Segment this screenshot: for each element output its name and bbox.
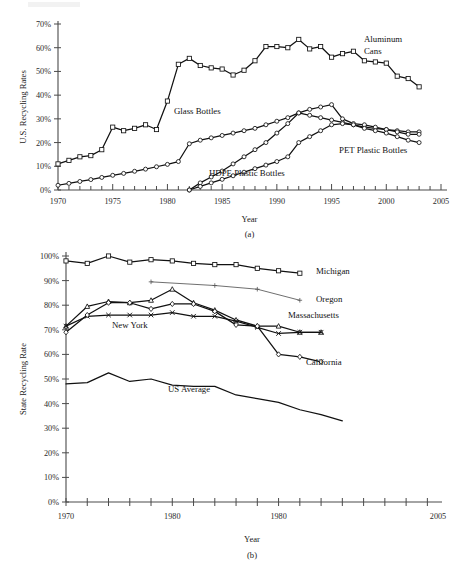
data-marker [154,165,158,169]
figure-a-caption: (a) [245,229,255,239]
data-marker [85,261,89,265]
y-tick-label: 0% [48,498,59,507]
data-marker [209,136,213,140]
data-marker [362,126,366,130]
data-marker [176,160,180,164]
data-marker [286,46,290,50]
x-axis-title: Year [242,214,258,224]
label-pet-bottles: PET Plastic Bottles [339,145,408,155]
data-marker [154,127,158,131]
data-marker [341,122,345,126]
y-tick-label: 10% [36,162,51,171]
series-california [64,300,323,364]
data-marker [297,111,301,115]
data-marker [67,158,71,162]
data-marker [417,141,421,145]
data-marker [106,300,110,305]
data-marker [384,61,388,65]
data-marker [170,259,174,263]
y-tick-label: 80% [44,301,59,310]
data-marker [253,59,257,63]
figure-a-container: 0%10%20%30%40%50%60%70%19701975198019851… [0,0,460,240]
data-marker [319,44,323,48]
data-marker [406,138,410,142]
y-tick-label: 60% [36,44,51,53]
y-ticks-a: 0%10%20%30%40%50%60%70% [36,20,61,195]
data-marker [319,116,323,120]
series-us-average [66,373,342,421]
x-tick-label: 1970 [50,197,66,206]
series-line [66,373,342,421]
label-oregon: Oregon [316,294,343,304]
axes-group-a [58,21,447,190]
data-marker [253,126,257,130]
data-marker [329,55,333,59]
data-marker [395,135,399,139]
data-marker [319,105,323,109]
y-ticks-b: 0%10%20%30%40%50%60%70%80%90%100% [40,252,69,507]
data-marker [319,129,323,133]
data-marker [417,132,421,136]
data-marker [198,63,202,67]
data-marker [67,181,71,185]
data-marker [286,122,290,126]
data-marker [297,141,301,145]
data-marker [384,131,388,135]
series-line [66,303,321,362]
x-tick-label: 1990 [269,197,285,206]
y-tick-label: 20% [36,139,51,148]
data-marker [406,76,410,80]
data-marker [209,66,213,70]
series-hdpe-plastic-bottles [187,122,421,192]
data-marker [111,125,115,129]
y-tick-label: 70% [36,20,51,29]
data-marker [170,301,174,306]
data-marker [264,44,268,48]
data-marker [242,155,246,159]
series-michigan [64,254,302,275]
x-tick-label: 2005 [430,512,446,521]
y-axis-title: State Recycling Rate [18,343,28,415]
data-marker [170,287,175,292]
data-marker [100,175,104,179]
data-marker [373,129,377,133]
y-tick-label: 0% [40,186,51,195]
data-marker [330,103,334,107]
label-massachusetts: Massachusetts [288,310,339,320]
data-marker [276,269,280,273]
data-marker [149,298,154,303]
data-marker [275,44,279,48]
axes-group-b [66,252,442,502]
x-tick-label: 1970 [58,512,74,521]
y-tick-label: 20% [44,449,59,458]
figure-b-chart: 0%10%20%30%40%50%60%70%80%90%100%1970198… [0,240,460,561]
data-marker [298,271,302,275]
x-axis-title: Year [244,534,260,544]
data-marker [255,287,260,292]
data-marker [149,306,153,311]
y-tick-label: 90% [44,277,59,286]
data-marker [198,184,202,188]
data-marker [351,123,355,127]
data-marker [308,47,312,51]
data-marker [308,135,312,139]
data-marker [176,62,180,66]
data-marker [85,304,90,309]
y-tick-label: 50% [36,67,51,76]
data-marker [144,167,148,171]
data-marker [133,169,137,173]
data-marker [213,263,217,267]
data-marker [89,178,93,182]
data-marker [64,259,68,263]
label-new-york: New York [112,320,148,330]
data-marker [149,258,153,262]
y-tick-label: 30% [44,424,59,433]
data-marker [286,116,290,120]
data-marker [255,266,259,270]
data-marker [417,85,421,89]
series-new-york [64,310,324,336]
data-marker [187,142,191,146]
data-marker [286,155,290,159]
x-tick-label: 1980 [270,512,286,521]
data-marker [198,138,202,142]
